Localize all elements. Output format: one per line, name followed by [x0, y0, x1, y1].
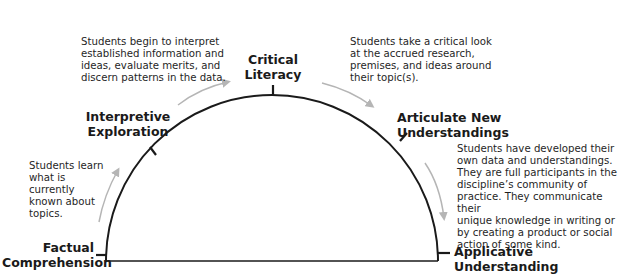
stage-label-line1: Articulate New [397, 110, 527, 125]
arrow-icon-4 [425, 163, 444, 218]
stage-label-line1: Critical [238, 52, 308, 67]
description-line: ideas, evaluate merits, and [81, 60, 241, 72]
description-line: their topic(s). [350, 72, 510, 84]
description-line: discipline’s community of [457, 179, 618, 191]
description-line: Students have developed their [457, 143, 618, 155]
description-critical-to-articulate: Students take a critical look at the acc… [350, 36, 510, 84]
stage-label-line2: Exploration [78, 124, 178, 139]
description-factual-to-interpretive: Students learn what is currently known a… [29, 160, 109, 220]
description-line: known about [29, 196, 109, 208]
description-line: Students learn [29, 160, 109, 172]
stage-label-line2: Comprehension [2, 255, 94, 270]
description-line: premises, and ideas around [350, 60, 510, 72]
description-line: practice. They communicate their [457, 191, 618, 215]
description-line: own data and understandings. [457, 155, 618, 167]
description-line: by creating a product or social [457, 227, 618, 239]
stage-label-line2: Understandings [397, 125, 527, 140]
description-interpretive-to-critical: Students begin to interpret established … [81, 36, 241, 84]
stage-factual-comprehension: Factual Comprehension [2, 240, 94, 270]
description-line: Students begin to interpret [81, 36, 241, 48]
stage-articulate-new-understandings: Articulate New Understandings [397, 110, 527, 140]
description-line: Students take a critical look [350, 36, 510, 48]
description-line: what is currently [29, 172, 109, 196]
stage-label-line1: Interpretive [78, 109, 178, 124]
arrow-icon-2 [178, 82, 228, 105]
description-line: unique knowledge in writing or [457, 215, 618, 227]
arrow-icon-3 [322, 83, 372, 106]
description-line: action of some kind. [457, 239, 618, 251]
description-articulate-to-applicative: Students have developed their own data a… [457, 143, 618, 251]
description-line: at the accrued research, [350, 48, 510, 60]
stage-label-line2: Understanding [454, 259, 584, 274]
description-line: They are full participants in the [457, 167, 618, 179]
stage-label-line2: Literacy [238, 67, 308, 82]
tick-interpretive [150, 147, 156, 155]
stage-label-line1: Factual [2, 240, 94, 255]
description-line: established information and [81, 48, 241, 60]
description-line: topics. [29, 208, 109, 220]
description-line: discern patterns in the data. [81, 72, 241, 84]
stage-interpretive-exploration: Interpretive Exploration [78, 109, 178, 139]
stage-critical-literacy: Critical Literacy [238, 52, 308, 82]
